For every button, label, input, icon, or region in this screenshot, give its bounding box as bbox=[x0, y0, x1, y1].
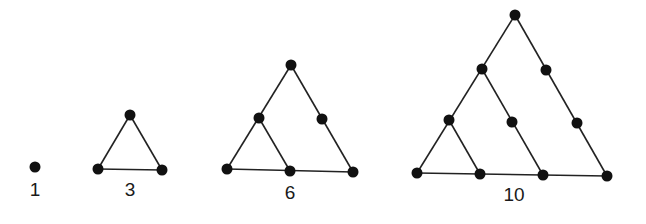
dot bbox=[254, 113, 265, 124]
figure-10: 10 bbox=[412, 10, 613, 206]
dot bbox=[510, 10, 521, 21]
edge-line bbox=[98, 169, 162, 170]
figure-3: 3 bbox=[93, 110, 168, 201]
dot bbox=[475, 169, 486, 180]
dot bbox=[444, 115, 455, 126]
dot bbox=[125, 110, 136, 121]
dot bbox=[538, 170, 549, 181]
dot bbox=[157, 165, 168, 176]
dot bbox=[477, 64, 488, 75]
dot bbox=[93, 164, 104, 175]
dot bbox=[317, 114, 328, 125]
dot bbox=[541, 65, 552, 76]
figure-label: 3 bbox=[125, 179, 136, 200]
dot bbox=[285, 166, 296, 177]
edge-line bbox=[449, 120, 480, 174]
edge-line bbox=[130, 115, 162, 170]
dot bbox=[30, 162, 41, 173]
dot bbox=[412, 168, 423, 179]
figure-label: 6 bbox=[285, 182, 296, 203]
edge-line bbox=[98, 115, 130, 169]
edge-line bbox=[259, 118, 290, 171]
figure-6: 6 bbox=[222, 60, 359, 204]
figure-1: 1 bbox=[30, 162, 41, 201]
dot bbox=[602, 171, 613, 182]
triangular-numbers-diagram: 1 3 6 10 bbox=[0, 0, 646, 224]
edge-line bbox=[417, 173, 607, 176]
dot bbox=[222, 164, 233, 175]
figure-label: 1 bbox=[30, 179, 41, 200]
dot bbox=[348, 167, 359, 178]
figure-label: 10 bbox=[503, 184, 524, 205]
dot bbox=[507, 117, 518, 128]
dot bbox=[572, 118, 583, 129]
dot bbox=[286, 60, 297, 71]
